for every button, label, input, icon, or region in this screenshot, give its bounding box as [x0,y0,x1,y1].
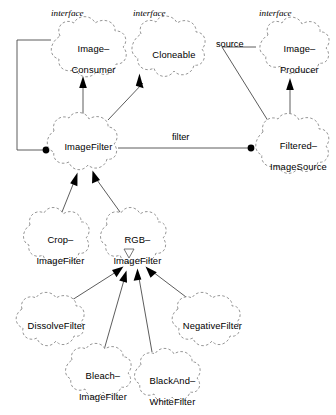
edge-bleachimagefilter-extends-rgbimagefilter [104,271,127,351]
node-shape-image-producer[interactable] [260,17,329,74]
node-shape-dissolve-filter[interactable] [16,292,84,345]
class-diagram-canvas: interface interface interface Image– Con… [0,0,336,415]
edge-cropimagefilter-extends-imagefilter [62,173,78,213]
edge-imagefilter-implements-cloneable [108,74,144,121]
node-shape-negative-filter[interactable] [172,292,240,345]
edge-label-filter: filter [172,132,189,142]
stereotype-image-producer: interface [259,8,292,18]
node-shape-crop-image-filter[interactable] [23,207,89,262]
edge-rgbimagefilter-extends-imagefilter [92,171,120,213]
edge-dissolvefilter-extends-rgbimagefilter [72,267,124,301]
edge-filteredimagesource-filter-imagefilter [118,145,254,152]
edge-negativefilter-extends-rgbimagefilter [146,267,191,301]
stereotype-image-consumer: interface [51,8,84,18]
node-shape-filtered-image-source[interactable] [256,113,329,173]
node-shape-rgb-image-filter[interactable] [100,207,166,262]
node-shape-bleach-image-filter[interactable] [65,343,131,396]
node-shape-black-and-white-filter[interactable] [134,348,200,401]
node-shape-image-filter[interactable] [47,112,117,169]
edge-imagefilter-uses-imageconsumer [17,40,51,153]
edge-blackandwhitefilter-extends-rgbimagefilter [134,269,152,353]
node-shape-image-consumer[interactable] [51,17,126,77]
diagram-vector-layer [0,0,336,415]
edge-label-source: source [216,39,244,49]
node-shape-cloneable[interactable] [132,16,205,76]
association-dot [248,145,255,152]
stereotype-cloneable: interface [133,8,166,18]
